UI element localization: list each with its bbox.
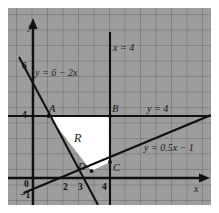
plot-area: y x 6 4 0 −1 2 3 4 y = 6 − 2x x = 4 y = … <box>8 8 211 205</box>
y-tick-6: 6 <box>22 62 27 72</box>
label-line-x-equals-4: x = 4 <box>113 43 134 53</box>
point-A-dot <box>47 114 51 118</box>
point-C-dot <box>108 160 112 164</box>
point-A-label: A <box>49 104 55 115</box>
y-tick-4: 4 <box>22 111 27 121</box>
origin-tick-0: 0 <box>24 180 29 190</box>
label-line-half-x-minus-1: y = 0.5x − 1 <box>144 143 194 153</box>
point-B-dot <box>108 114 112 118</box>
x-axis-arrowhead <box>199 173 210 182</box>
point-D-label: D <box>78 162 86 173</box>
math-figure: y x 6 4 0 −1 2 3 4 y = 6 − 2x x = 4 y = … <box>0 0 219 213</box>
label-line-y-equals-4: y = 4 <box>147 104 168 114</box>
region-label-R: R <box>74 132 81 144</box>
point-C-label: C <box>113 163 120 174</box>
x-tick-3: 3 <box>78 183 83 193</box>
x-axis-label: x <box>194 184 198 194</box>
point-B-label: B <box>112 104 118 115</box>
point-D-dot <box>90 169 94 173</box>
x-tick-2: 2 <box>63 183 68 193</box>
y-tick-minus-1: −1 <box>20 191 30 201</box>
x-tick-4: 4 <box>102 183 107 193</box>
graph-drawing <box>8 8 211 205</box>
line-y-equals-half-x-minus-1 <box>24 115 212 193</box>
y-axis-label: y <box>28 22 32 32</box>
label-line-6-minus-2x: y = 6 − 2x <box>35 68 77 78</box>
